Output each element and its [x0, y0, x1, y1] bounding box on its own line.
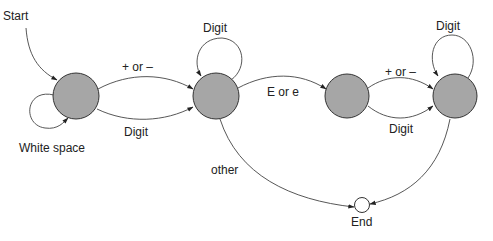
edge-label-e: E or e [267, 85, 299, 99]
state-1 [53, 73, 99, 119]
state-3 [325, 74, 369, 118]
edge-label-digit-4: Digit [436, 19, 461, 33]
end-label: End [351, 215, 372, 229]
edge-s1-s2-sign [98, 77, 193, 89]
state-diagram: Start White space + or – Digit Digit E o… [0, 0, 493, 241]
edge-label-digit-3: Digit [389, 122, 414, 136]
edge-start-to-s1 [26, 28, 57, 80]
edge-label-sign-1: + or – [122, 60, 153, 74]
state-2 [193, 73, 239, 119]
state-end [355, 198, 370, 213]
edge-s3-s4-digit [368, 106, 433, 118]
edge-s2-end [220, 119, 354, 207]
edge-s1-s2-digit [97, 107, 193, 119]
edge-s3-s4-sign [368, 78, 433, 89]
edge-label-digit-2: Digit [203, 21, 228, 35]
edge-label-sign-2: + or – [385, 65, 416, 79]
start-label: Start [3, 9, 29, 23]
edge-s4-self [432, 35, 473, 78]
edge-label-white-space: White space [19, 141, 85, 155]
edge-label-digit-1: Digit [124, 125, 149, 139]
edge-label-other: other [211, 163, 238, 177]
state-4 [433, 74, 477, 118]
